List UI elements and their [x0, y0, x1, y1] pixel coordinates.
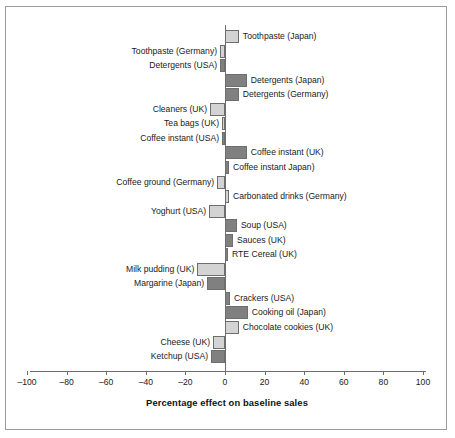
x-tick-label: –100	[7, 377, 47, 387]
x-tick-label: 40	[284, 377, 324, 387]
bar-row: Coffee instant Japan)	[6, 161, 448, 174]
bar[interactable]	[209, 205, 225, 218]
x-tick	[344, 371, 345, 375]
bar-row: Milk pudding (UK)	[6, 263, 448, 276]
bar[interactable]	[213, 336, 225, 349]
bar-label: Toothpaste (Japan)	[243, 29, 317, 43]
bar[interactable]	[217, 176, 225, 189]
x-tick-label: –60	[86, 377, 126, 387]
x-tick-label: 100	[403, 377, 443, 387]
x-axis-line	[30, 371, 426, 372]
chart-frame: Toothpaste (Japan)Toothpaste (Germany)De…	[5, 6, 447, 430]
bar-label: Coffee ground (Germany)	[116, 175, 214, 189]
bar-row: Coffee ground (Germany)	[6, 176, 448, 189]
bar-label: Sauces (UK)	[237, 233, 286, 247]
bar-label: Detergents (USA)	[149, 58, 217, 72]
bar-row: Coffee instant (UK)	[6, 146, 448, 159]
bar-label: Crackers (USA)	[234, 291, 294, 305]
plot-area: Toothpaste (Japan)Toothpaste (Germany)De…	[6, 7, 448, 431]
bar-row: Toothpaste (Japan)	[6, 30, 448, 43]
bar-row: Crackers (USA)	[6, 292, 448, 305]
bar-row: Soup (USA)	[6, 219, 448, 232]
bar-row: Tea bags (UK)	[6, 117, 448, 130]
x-tick	[423, 371, 424, 375]
bar-row: Detergents (Japan)	[6, 74, 448, 87]
bar-row: Coffee instant (USA)	[6, 132, 448, 145]
bar[interactable]	[225, 146, 247, 159]
bar[interactable]	[225, 88, 239, 101]
bar-row: Cleaners (UK)	[6, 103, 448, 116]
bar-label: Toothpaste (Germany)	[132, 44, 218, 58]
x-axis-label: Percentage effect on baseline sales	[6, 397, 448, 408]
bar-label: Tea bags (UK)	[164, 116, 219, 130]
bar-label: Ketchup (USA)	[151, 349, 208, 363]
bar-label: Detergents (Japan)	[251, 73, 325, 87]
bar[interactable]	[225, 219, 237, 232]
bar-row: Chocolate cookies (UK)	[6, 321, 448, 334]
x-tick	[265, 371, 266, 375]
bar-row: Margarine (Japan)	[6, 277, 448, 290]
bar[interactable]	[220, 59, 225, 72]
bar[interactable]	[211, 350, 225, 363]
x-tick-label: 60	[324, 377, 364, 387]
bar-label: Carbonated drinks (Germany)	[233, 189, 347, 203]
bar-label: Soup (USA)	[241, 218, 287, 232]
bar-row: Yoghurt (USA)	[6, 205, 448, 218]
bar-label: Coffee instant Japan)	[233, 160, 315, 174]
x-tick	[225, 371, 226, 375]
x-tick	[27, 371, 28, 375]
bar-label: Cheese (UK)	[160, 335, 210, 349]
x-tick-label: –20	[165, 377, 205, 387]
bar[interactable]	[225, 306, 248, 319]
bar-row: Detergents (USA)	[6, 59, 448, 72]
bar-label: Cooking oil (Japan)	[252, 305, 326, 319]
bar-row: Cooking oil (Japan)	[6, 306, 448, 319]
bar[interactable]	[225, 74, 247, 87]
bar-row: Detergents (Germany)	[6, 88, 448, 101]
x-tick-label: –40	[126, 377, 166, 387]
bar-label: Coffee instant (UK)	[251, 145, 324, 159]
x-tick	[383, 371, 384, 375]
bar-label: Cleaners (UK)	[153, 102, 207, 116]
x-tick-label: 0	[205, 377, 245, 387]
x-tick	[304, 371, 305, 375]
bar-row: Sauces (UK)	[6, 234, 448, 247]
x-tick	[106, 371, 107, 375]
bar-label: Chocolate cookies (UK)	[243, 320, 333, 334]
bar[interactable]	[210, 103, 225, 116]
bar[interactable]	[225, 190, 229, 203]
bar[interactable]	[225, 292, 230, 305]
bar-row: Ketchup (USA)	[6, 350, 448, 363]
bar[interactable]	[222, 132, 225, 145]
bar-label: Coffee instant (USA)	[140, 131, 219, 145]
bar[interactable]	[222, 117, 225, 130]
bar[interactable]	[225, 234, 233, 247]
bar[interactable]	[197, 263, 225, 276]
bar-label: Milk pudding (UK)	[126, 262, 194, 276]
x-tick-label: 80	[363, 377, 403, 387]
bar[interactable]	[225, 30, 239, 43]
x-tick-label: 20	[245, 377, 285, 387]
x-tick	[185, 371, 186, 375]
bar-row: Toothpaste (Germany)	[6, 45, 448, 58]
bar-row: Carbonated drinks (Germany)	[6, 190, 448, 203]
bar-label: Margarine (Japan)	[134, 276, 204, 290]
bar[interactable]	[207, 277, 225, 290]
bar[interactable]	[225, 161, 229, 174]
bar[interactable]	[225, 248, 228, 261]
x-tick	[67, 371, 68, 375]
bar[interactable]	[220, 45, 225, 58]
bar-row: Cheese (UK)	[6, 336, 448, 349]
bar-label: Yoghurt (USA)	[151, 204, 206, 218]
bar-label: Detergents (Germany)	[243, 87, 329, 101]
x-tick-label: –80	[47, 377, 87, 387]
bar-label: RTE Cereal (UK)	[232, 247, 297, 261]
bar-row: RTE Cereal (UK)	[6, 248, 448, 261]
x-tick	[146, 371, 147, 375]
bar[interactable]	[225, 321, 239, 334]
